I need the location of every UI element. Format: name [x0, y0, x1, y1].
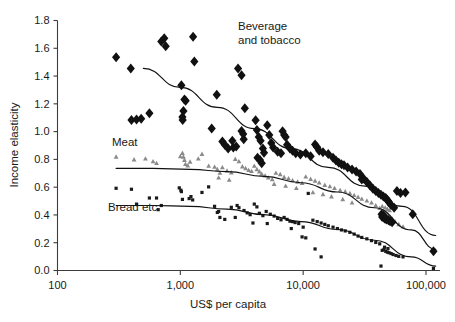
- data-point-bread: [130, 188, 133, 191]
- x-axis-title: US$ per capita: [190, 298, 267, 310]
- data-point-bread: [189, 195, 192, 198]
- y-tick-label: 0.6: [34, 181, 49, 193]
- data-point-bread: [313, 247, 316, 250]
- data-point-bread: [307, 192, 310, 195]
- data-point-bread: [230, 206, 233, 209]
- data-point-bread: [290, 227, 293, 230]
- data-point-bread: [237, 206, 240, 209]
- y-tick-label: 1.8: [34, 14, 49, 26]
- data-point-bread: [304, 236, 307, 239]
- data-point-bread: [265, 210, 268, 213]
- chart-canvas: 0.00.20.40.60.81.01.21.41.61.8 1001,0001…: [0, 0, 455, 322]
- data-point-bread: [323, 223, 326, 226]
- annotation-beverage-and-tobacco: Beverage: [238, 20, 287, 32]
- data-point-bread: [394, 254, 397, 257]
- data-point-bread: [378, 242, 381, 245]
- y-axis-title: Income elasticity: [8, 102, 20, 187]
- data-point-bread: [397, 255, 400, 258]
- data-point-bread: [223, 218, 226, 221]
- data-point-bread: [155, 196, 158, 199]
- chart-background: [0, 0, 455, 322]
- annotation-meat: Meat: [112, 136, 138, 148]
- x-tick-label: 100: [48, 279, 66, 291]
- data-point-bread: [266, 222, 269, 225]
- x-tick-label: 1,000: [167, 279, 195, 291]
- data-point-bread: [320, 255, 323, 258]
- data-point-bread: [316, 220, 319, 223]
- data-point-bread: [148, 196, 151, 199]
- data-point-bread: [374, 241, 377, 244]
- data-point-bread: [251, 221, 254, 224]
- y-tick-label: 1.6: [34, 42, 49, 54]
- data-point-bread: [255, 205, 258, 208]
- data-point-bread: [180, 190, 183, 193]
- y-tick-label: 0.0: [34, 264, 49, 276]
- data-point-bread: [207, 185, 210, 188]
- data-point-bread: [311, 219, 314, 222]
- data-point-bread: [331, 226, 334, 229]
- y-tick-label: 0.4: [34, 209, 49, 221]
- data-point-bread: [181, 198, 184, 201]
- data-point-bread: [213, 205, 216, 208]
- data-point-bread: [253, 203, 256, 206]
- y-tick-label: 1.2: [34, 98, 49, 110]
- x-tick-label: 10,000: [286, 279, 320, 291]
- data-point-bread: [386, 247, 389, 250]
- data-point-bread: [379, 264, 382, 267]
- data-point-bread: [191, 198, 194, 201]
- y-tick-label: 0.8: [34, 153, 49, 165]
- data-point-bread: [320, 221, 323, 224]
- data-point-bread: [392, 253, 395, 256]
- y-tick-label: 1.0: [34, 125, 49, 137]
- data-point-bread: [218, 216, 221, 219]
- data-point-bread: [383, 246, 386, 249]
- data-point-bread: [279, 218, 282, 221]
- x-tick-label: 100,000: [406, 279, 446, 291]
- income-elasticity-scatter-chart: 0.00.20.40.60.81.01.21.41.61.8 1001,0001…: [0, 0, 455, 322]
- data-point-bread: [300, 235, 303, 238]
- y-tick-label: 1.4: [34, 70, 49, 82]
- data-point-bread: [217, 210, 220, 213]
- annotation-beverage-and-tobacco: and tobacco: [238, 34, 301, 46]
- annotation-bread-etc: Bread etc: [108, 201, 157, 213]
- data-point-bread: [297, 222, 300, 225]
- y-tick-label: 0.2: [34, 237, 49, 249]
- data-point-bread: [302, 226, 305, 229]
- data-point-bread: [115, 187, 118, 190]
- data-point-bread: [432, 267, 435, 270]
- data-point-bread: [327, 224, 330, 227]
- data-point-bread: [234, 216, 237, 219]
- data-point-bread: [200, 191, 203, 194]
